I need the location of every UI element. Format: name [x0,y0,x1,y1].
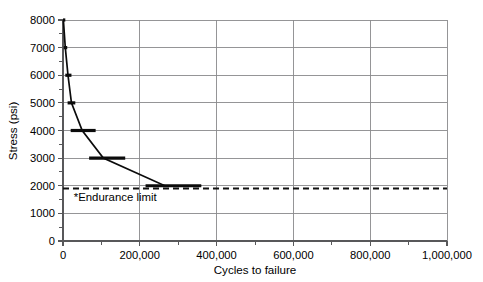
x-tick-label: 800,000 [350,249,390,261]
y-axis-title: Stress (psi) [6,102,19,161]
y-axis-tick-labels: 010002000300040005000600070008000 [30,14,55,247]
y-tick-label: 7000 [30,42,55,54]
x-tick-label: 200,000 [120,249,160,261]
chart-canvas: 010002000300040005000600070008000 0200,0… [0,0,483,282]
y-tick-label: 6000 [30,69,55,81]
y-tick-label: 5000 [30,97,55,109]
svg-text:Stress (psi): Stress (psi) [6,102,19,161]
endurance-limit-label: *Endurance limit [74,191,158,203]
y-axis-major-ticks [58,20,63,241]
x-tick-label: 0 [60,249,66,261]
y-tick-label: 1000 [30,207,55,219]
y-tick-label: 3000 [30,152,55,164]
chart-annotations: *Endurance limit [74,191,158,203]
svg-text:Cycles to failure: Cycles to failure [214,263,296,276]
sn-fatigue-chart: 010002000300040005000600070008000 0200,0… [0,0,483,282]
y-tick-label: 8000 [30,14,55,26]
x-tick-label: 1,000,000 [422,249,472,261]
y-tick-label: 0 [49,235,55,247]
x-axis-title: Cycles to failure [214,263,296,276]
y-tick-label: 4000 [30,125,55,137]
x-axis-tick-labels: 0200,000400,000600,000800,0001,000,000 [60,249,472,261]
x-tick-label: 400,000 [196,249,236,261]
x-tick-label: 600,000 [273,249,313,261]
y-tick-label: 2000 [30,180,55,192]
